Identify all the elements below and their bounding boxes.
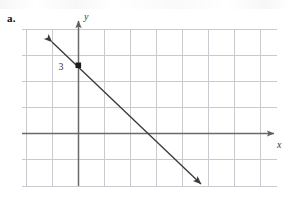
axis-lines [22, 21, 274, 186]
y-axis-label: y [83, 11, 89, 22]
x-axis-label: x [276, 139, 282, 150]
grid-lines [22, 29, 277, 187]
plotted-line [52, 42, 201, 184]
coordinate-plane: y x 3 [0, 0, 289, 200]
y-intercept-label: 3 [59, 61, 64, 72]
y-intercept-point [76, 63, 82, 69]
figure-panel: a. [0, 0, 289, 200]
